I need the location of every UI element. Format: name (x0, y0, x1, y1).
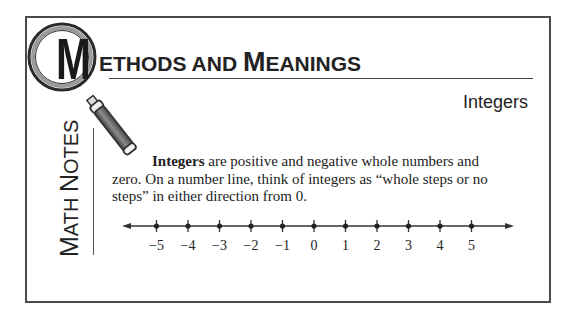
math-notes-label: MATH NOTES (55, 120, 84, 257)
page-title: ETHODS AND MEANINGS (99, 47, 361, 78)
topic-subtitle: Integers (463, 92, 528, 113)
title-part-2: EANINGS (265, 52, 361, 75)
definition-paragraph: Integers are positive and negative whole… (112, 153, 512, 206)
logo-letter: M (56, 30, 91, 88)
side-divider (93, 128, 94, 255)
tick-label: −2 (244, 238, 259, 254)
side-cap-2: N (55, 174, 83, 192)
tick-label: 3 (405, 238, 412, 254)
tick-label: 4 (437, 238, 444, 254)
side-part-1: ATH (60, 192, 82, 236)
side-cap-1: M (55, 236, 83, 257)
tick-label: 2 (374, 238, 381, 254)
tick-label: 5 (468, 238, 475, 254)
tick-label: 0 (311, 238, 318, 254)
title-cap-2: M (243, 47, 266, 77)
tick-label: −1 (275, 238, 290, 254)
tick-label: −5 (149, 238, 164, 254)
term-bold: Integers (152, 153, 205, 169)
tick-label: −3 (212, 238, 227, 254)
side-part-2: OTES (60, 120, 82, 174)
title-part-1: ETHODS AND (99, 52, 243, 75)
tick-label: 1 (342, 238, 349, 254)
tick-label: −4 (181, 238, 196, 254)
title-underline (109, 78, 533, 79)
